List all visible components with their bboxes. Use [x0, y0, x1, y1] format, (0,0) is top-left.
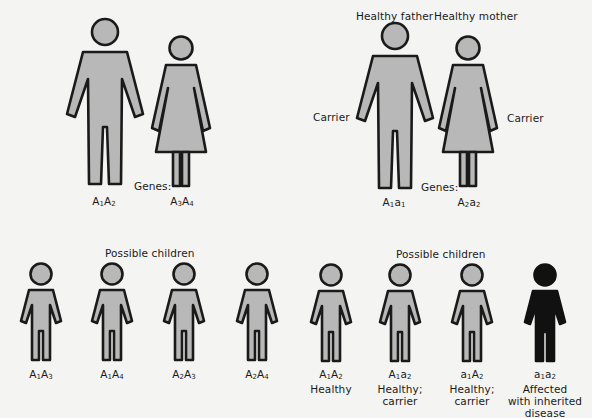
right-child-4-genotype: a1a2: [505, 368, 585, 383]
right-child-2-genotype: A1a2: [365, 368, 435, 383]
child-figure-2: [92, 264, 132, 361]
left-father-figure: [67, 19, 143, 184]
child-figure-8-affected: [525, 265, 565, 362]
right-child-1-status: Healthy: [296, 383, 366, 395]
child-figure-5: [311, 265, 351, 362]
left-father-genotype: A1A2: [84, 195, 124, 210]
right-child-3-genotype: a1A2: [437, 368, 507, 383]
left-mother-genotype: A3A4: [162, 195, 202, 210]
right-child-2-label: A1a2 Healthy;carrier: [365, 368, 435, 407]
right-child-3-label: a1A2 Healthy;carrier: [437, 368, 507, 407]
right-child-4-label: a1a2 Affectedwith inheriteddisease: [505, 368, 585, 418]
right-child-1-genotype: A1A2: [296, 368, 366, 383]
right-father-title: Healthy father: [356, 10, 433, 22]
right-father-genotype: A1a1: [374, 196, 414, 211]
right-mother-genotype: A2a2: [449, 196, 489, 211]
right-child-1-label: A1A2 Healthy: [296, 368, 366, 395]
left-child-1-genotype: A1A3: [16, 368, 66, 383]
right-child-4-status: Affectedwith inheriteddisease: [505, 383, 585, 418]
right-genes-label: Genes:: [421, 181, 458, 193]
left-possible-children-title: Possible children: [105, 247, 194, 259]
left-child-3-genotype: A2A3: [159, 368, 209, 383]
left-genes-label: Genes:: [134, 180, 171, 192]
right-father-carrier-label: Carrier: [313, 111, 350, 123]
child-figure-1: [21, 264, 61, 361]
right-mother-carrier-label: Carrier: [507, 112, 544, 124]
child-figure-7: [452, 265, 492, 362]
right-mother-title: Healthy mother: [434, 10, 518, 22]
child-figure-3: [164, 264, 204, 361]
right-child-2-status: Healthy;carrier: [365, 383, 435, 407]
right-possible-children-title: Possible children: [396, 248, 485, 260]
left-mother-figure: [152, 37, 210, 187]
right-mother-figure: [439, 37, 497, 187]
right-child-3-status: Healthy;carrier: [437, 383, 507, 407]
left-child-4-genotype: A2A4: [232, 368, 282, 383]
right-father-figure: [357, 23, 433, 188]
child-figure-4: [237, 264, 277, 361]
left-child-2-genotype: A1A4: [87, 368, 137, 383]
child-figure-6: [380, 265, 420, 362]
